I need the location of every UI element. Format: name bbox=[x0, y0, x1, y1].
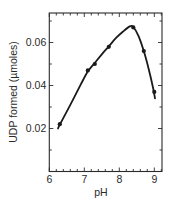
data-point bbox=[131, 25, 135, 29]
data-point bbox=[152, 90, 156, 94]
y-tick-label: 0.06 bbox=[26, 36, 47, 48]
data-points bbox=[58, 25, 157, 126]
curve-path bbox=[58, 26, 155, 129]
plot-axes: 67890.020.040.06 bbox=[26, 13, 162, 185]
ph-activity-chart: 67890.020.040.06 pH UDP formed (µmoles) bbox=[0, 0, 173, 207]
x-tick-label: 6 bbox=[46, 173, 52, 185]
data-point bbox=[86, 68, 90, 72]
x-tick-label: 8 bbox=[116, 173, 122, 185]
data-point bbox=[58, 122, 62, 126]
plot-frame bbox=[49, 13, 162, 172]
x-tick-label: 9 bbox=[151, 173, 157, 185]
fitted-curve bbox=[58, 26, 155, 129]
x-axis-label: pH bbox=[94, 186, 107, 198]
x-tick-label: 7 bbox=[81, 173, 87, 185]
data-point bbox=[142, 49, 146, 53]
y-tick-label: 0.04 bbox=[26, 79, 47, 91]
data-point bbox=[93, 62, 97, 66]
data-point bbox=[107, 45, 111, 49]
y-tick-label: 0.02 bbox=[26, 122, 47, 134]
y-axis-label: UDP formed (µmoles) bbox=[7, 41, 19, 143]
